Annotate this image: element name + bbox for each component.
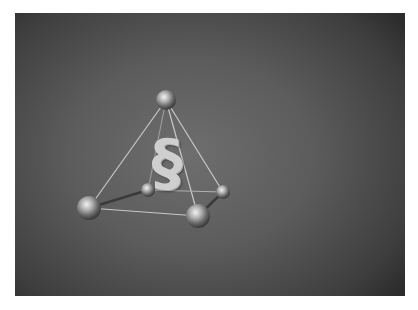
sphere-front-right <box>186 204 210 228</box>
sphere-top <box>156 90 176 110</box>
photo: § <box>15 13 405 296</box>
sphere-front-left <box>77 196 101 220</box>
front-spheres <box>15 13 405 296</box>
